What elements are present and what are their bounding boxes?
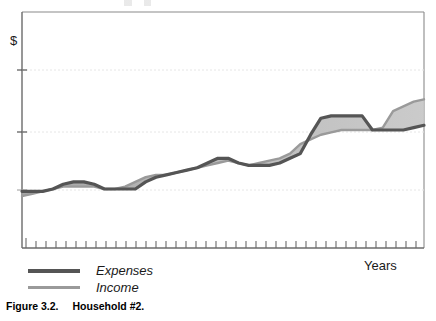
expenses-swatch-icon — [28, 269, 80, 273]
y-axis-label: $ — [10, 33, 17, 48]
legend-label-income: Income — [96, 280, 139, 295]
legend-item-income: Income — [28, 279, 248, 296]
figure-caption: Figure 3.2.Household #2. — [6, 300, 144, 312]
x-axis-label: Years — [364, 258, 397, 273]
figure-container: $ Years Expenses Income Figure 3.2.House… — [0, 0, 436, 321]
figure-caption-number: Figure 3.2. — [6, 300, 59, 312]
legend-item-expenses: Expenses — [28, 262, 248, 279]
legend-label-expenses: Expenses — [96, 263, 153, 278]
chart-legend: Expenses Income — [28, 262, 248, 296]
figure-caption-title: Household #2. — [73, 300, 145, 312]
plot-area — [0, 0, 436, 258]
x-axis-ticks — [26, 238, 416, 248]
chart-svg — [0, 0, 436, 258]
income-swatch-icon — [28, 286, 80, 289]
